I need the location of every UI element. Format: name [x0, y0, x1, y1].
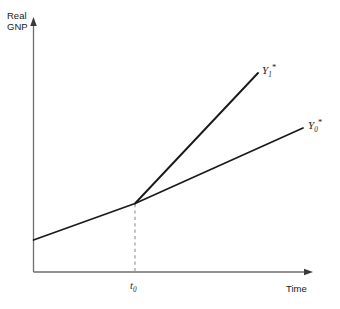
x-axis-tick-label-t0: t0: [130, 280, 137, 292]
curve-label-y1: Y1*: [262, 64, 276, 77]
curve-label-y0-superscript: *: [318, 117, 322, 127]
curve-label-y1-superscript: *: [272, 62, 276, 72]
curve-label-y0: Y0*: [308, 119, 322, 132]
x-axis-arrowhead-icon: [304, 269, 313, 276]
y-axis-label: Real GNP: [7, 10, 28, 32]
chart-canvas: [0, 0, 340, 309]
curve-y0-path: [34, 128, 304, 240]
curve-y1-path: [135, 73, 258, 204]
x-axis-label: Time: [286, 283, 307, 294]
tick-label-t0-subscript: 0: [133, 286, 137, 294]
y-axis-arrowhead-icon: [30, 17, 37, 26]
growth-path-chart: Real GNP Time Y1* Y0* t0: [0, 0, 340, 309]
